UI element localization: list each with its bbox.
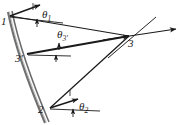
- theta-subscript: 1: [47, 14, 51, 23]
- node-label-3: 3: [128, 38, 134, 49]
- arrow-theta1: [10, 5, 40, 16]
- angle-label-theta3-prime: θ3': [57, 29, 68, 40]
- node-label-3-prime: 3': [15, 53, 23, 64]
- theta-subscript: 3': [62, 34, 67, 43]
- member-2-3: [50, 36, 129, 108]
- angle-label-theta1: θ1: [42, 9, 51, 20]
- theta-subscript: 2: [84, 106, 88, 115]
- angle-label-theta2: θ2: [79, 101, 88, 112]
- ref-line-node1: [10, 17, 63, 27]
- node-label-2: 2: [38, 104, 44, 115]
- node-label-1: 1: [1, 16, 7, 27]
- ref-line-node2: [50, 90, 100, 117]
- diagram-svg: [0, 0, 183, 125]
- figure-canvas: 1 3' 2 3 θ1 θ3' θ2: [0, 0, 183, 125]
